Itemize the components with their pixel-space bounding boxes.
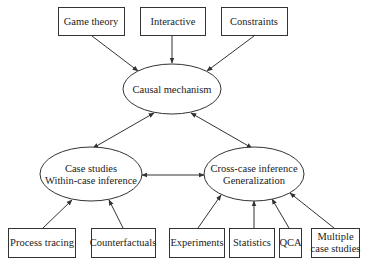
node-label-line2: Within-case inference (45, 175, 137, 186)
node-label: Game theory (64, 16, 119, 27)
node-label: Process tracing (10, 237, 75, 248)
node-label: Causal mechanism (132, 84, 211, 95)
node-process-tracing: Process tracing (9, 229, 76, 258)
node-label: Statistics (233, 237, 271, 248)
edge-experiments-to-cross-case (198, 195, 221, 228)
node-multiple-case-studies: Multiple case studies (311, 229, 361, 258)
causal-mechanism-diagram: Game theory Interactive Constraints Caus… (0, 0, 365, 265)
node-causal-mechanism: Causal mechanism (123, 64, 221, 114)
edge-causal-case-studies (93, 113, 154, 148)
edge-constraints-to-causal (207, 36, 254, 71)
node-experiments: Experiments (170, 229, 225, 258)
node-label-line1: Case studies (65, 163, 117, 174)
node-counterfactuals: Counterfactuals (90, 229, 156, 258)
node-qca: QCA (279, 229, 302, 258)
node-label: Experiments (170, 237, 223, 248)
edge-counterfactuals-to-case-studies (109, 200, 123, 228)
node-label: Constraints (230, 16, 278, 27)
node-statistics: Statistics (230, 229, 275, 258)
edge-process-tracing-to-case-studies (43, 200, 72, 228)
edge-qca-to-cross-case (272, 199, 289, 228)
node-label-line1: Multiple (317, 231, 354, 242)
edge-game-theory-to-causal (92, 36, 138, 71)
node-interactive: Interactive (141, 8, 206, 36)
edge-causal-cross-case (191, 113, 252, 148)
edge-multiple-to-cross-case (290, 193, 334, 228)
node-label: QCA (279, 237, 302, 248)
node-case-studies: Case studies Within-case inference (40, 147, 142, 201)
node-label-line2: Generalization (223, 175, 286, 186)
node-label: Interactive (151, 16, 196, 27)
node-label: Counterfactuals (90, 237, 156, 248)
node-label-line1: Cross-case inference (210, 163, 298, 174)
node-constraints: Constraints (222, 8, 288, 36)
node-game-theory: Game theory (59, 8, 125, 36)
node-cross-case-inference: Cross-case inference Generalization (204, 147, 304, 201)
node-label-line2: case studies (311, 243, 361, 254)
